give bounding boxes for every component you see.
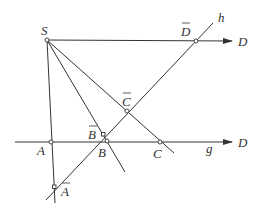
point-D-bar (194, 39, 198, 43)
label-B-bar: B (88, 127, 96, 142)
line-SD (47, 40, 232, 41)
label-A: A (36, 143, 45, 158)
line-SA (47, 40, 55, 203)
label-C-bar: C (122, 94, 131, 109)
label-C: C (153, 146, 162, 161)
point-B (105, 139, 109, 143)
line-SC (47, 40, 174, 153)
point-S (45, 38, 49, 42)
point-C (158, 140, 162, 144)
line-h (46, 23, 213, 200)
point-A (49, 140, 53, 144)
point-B-bar (102, 133, 106, 137)
label-D-bottom: D (237, 135, 248, 150)
label-S: S (41, 23, 48, 38)
label-D-bar: D (180, 24, 191, 39)
label-A-bar: A (60, 184, 69, 199)
label-B: B (98, 145, 106, 160)
line-SB (47, 40, 125, 172)
label-h: h (218, 10, 225, 25)
geometry-diagram: S D h D C B B A C g D A (0, 0, 261, 215)
label-g: g (206, 141, 213, 156)
label-D-top: D (237, 34, 248, 49)
point-C-bar (125, 109, 129, 113)
point-A-bar (53, 185, 57, 189)
